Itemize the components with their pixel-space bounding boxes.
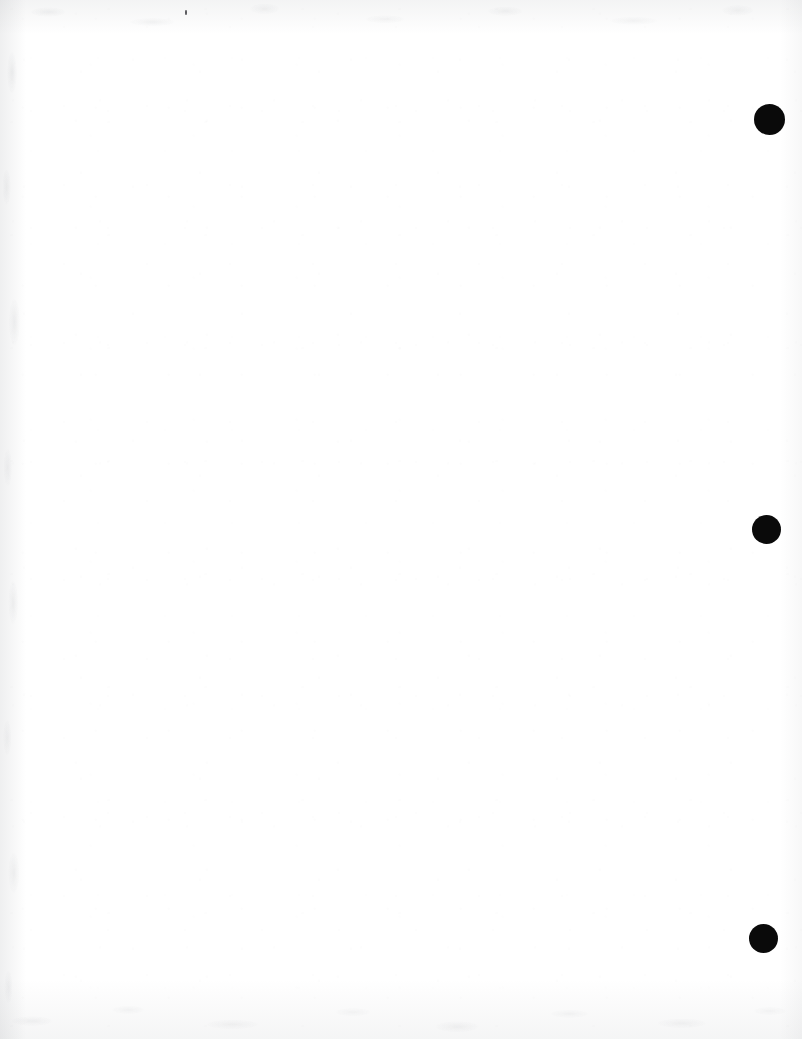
registration-dot-top — [754, 104, 785, 135]
paper-surface — [0, 0, 802, 1039]
registration-dot-middle — [752, 515, 781, 544]
scanned-page — [0, 0, 802, 1039]
registration-dot-bottom — [749, 924, 778, 953]
scan-speck-top — [185, 10, 187, 15]
